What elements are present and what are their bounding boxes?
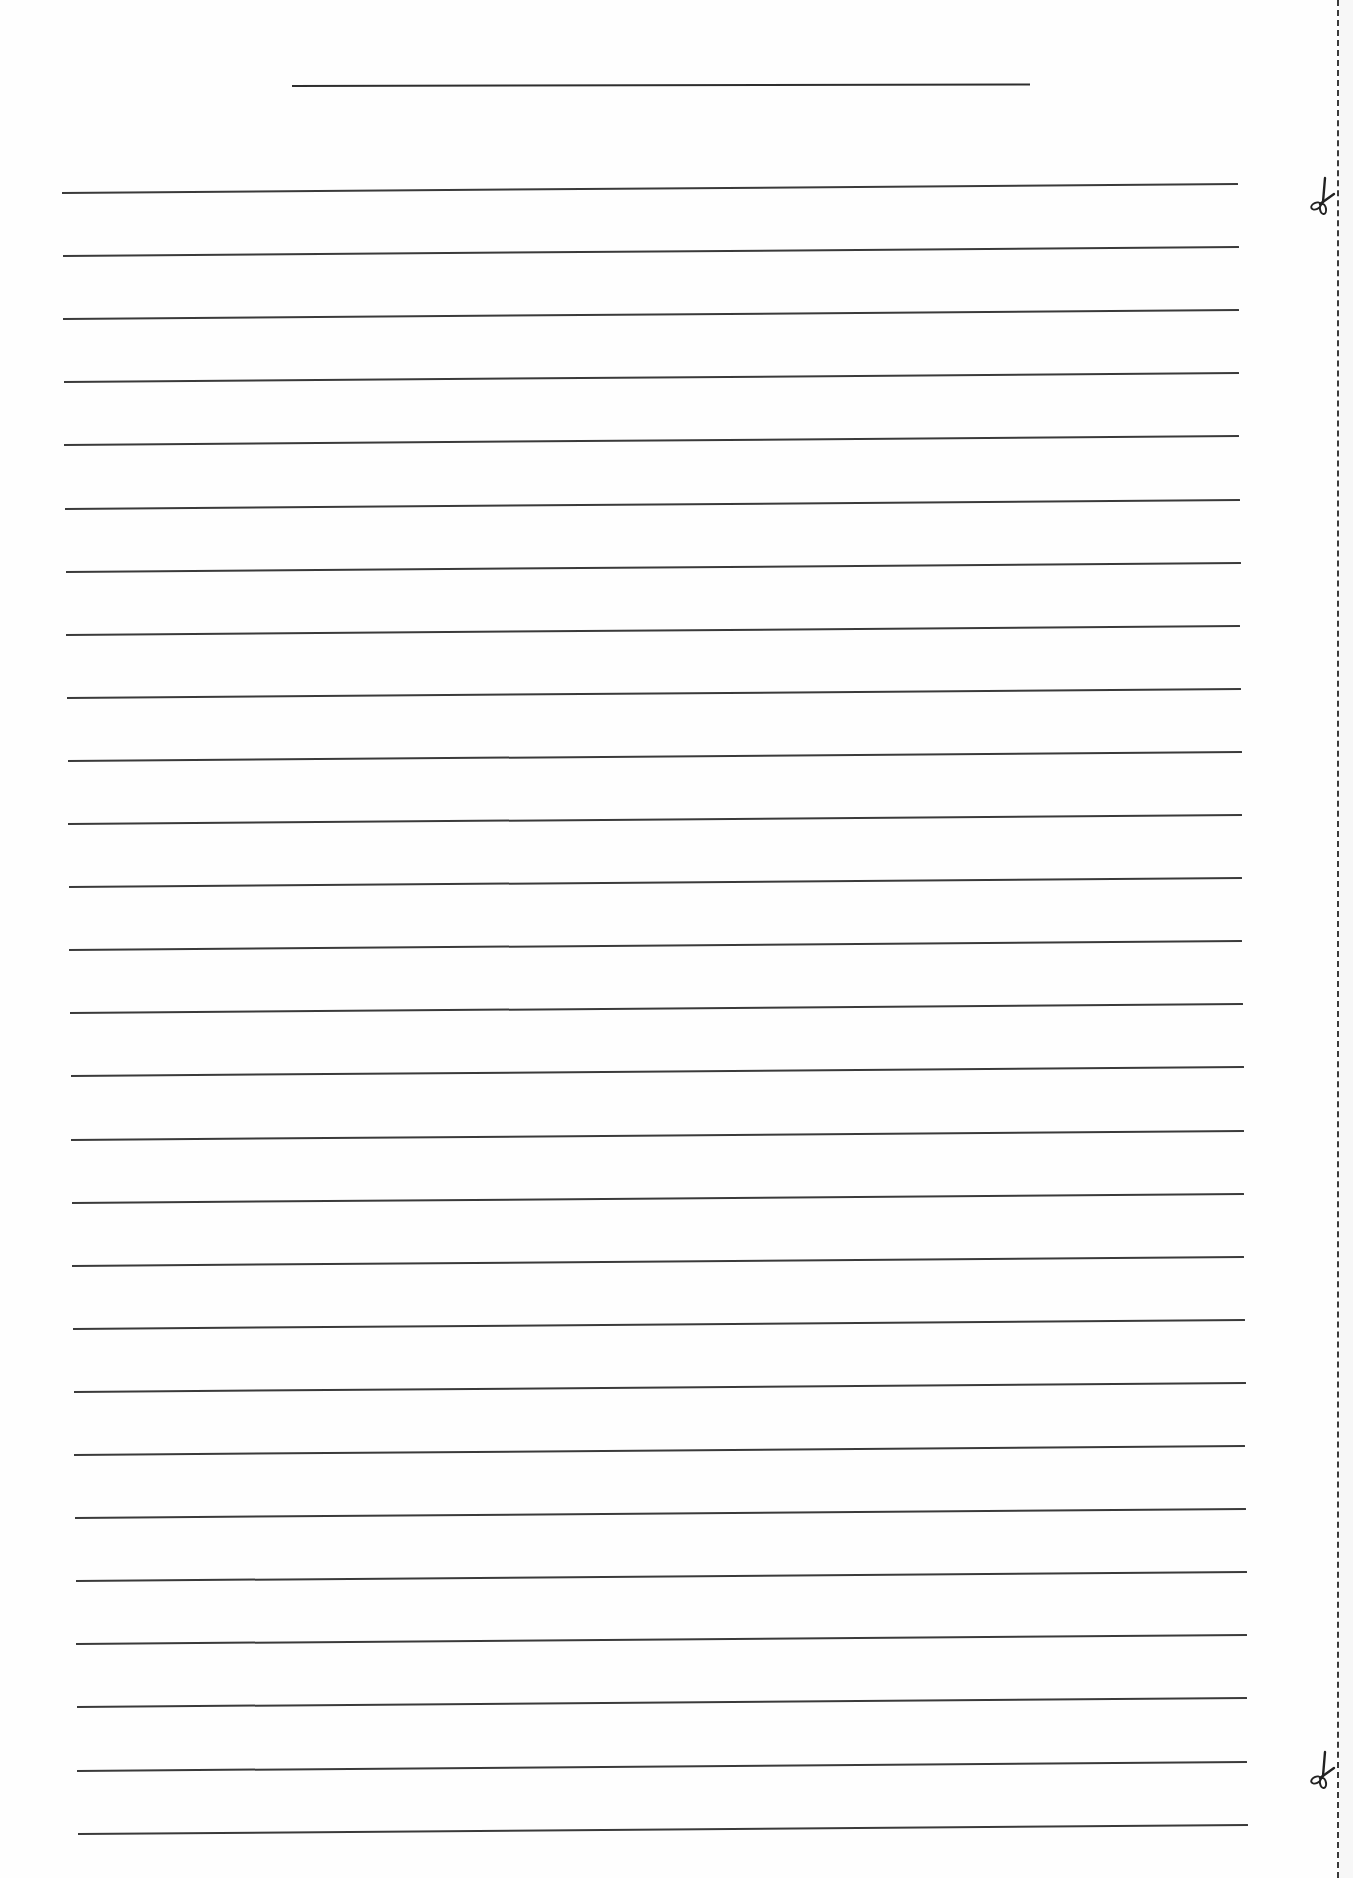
dashed-cut-line — [1337, 0, 1339, 1878]
ruled-line — [72, 1256, 1244, 1267]
ruled-line — [75, 1508, 1246, 1519]
ruled-line — [69, 940, 1242, 951]
scissors-icon — [1308, 1750, 1336, 1790]
ruled-line — [64, 435, 1239, 446]
ruled-line — [76, 1571, 1247, 1582]
ruled-line — [71, 1130, 1244, 1141]
scissors-icon — [1308, 176, 1336, 216]
ruled-lines — [0, 0, 1353, 1878]
ruled-line — [68, 814, 1242, 825]
ruled-line — [69, 877, 1242, 888]
ruled-line — [63, 246, 1239, 257]
ruled-line — [65, 499, 1240, 510]
ruled-line — [64, 372, 1239, 383]
ruled-line — [77, 1761, 1247, 1772]
ruled-line — [66, 625, 1240, 636]
ruled-line — [71, 1066, 1244, 1077]
ruled-line — [68, 751, 1242, 762]
ruled-line — [74, 1382, 1246, 1393]
ruled-line — [67, 688, 1241, 699]
ruled-line — [73, 1319, 1245, 1330]
ruled-line — [62, 183, 1238, 194]
ruled-line — [66, 562, 1241, 573]
lined-paper-page — [0, 0, 1353, 1878]
ruled-line — [72, 1193, 1244, 1204]
ruled-line — [78, 1824, 1248, 1835]
ruled-line — [76, 1634, 1247, 1645]
ruled-line — [74, 1445, 1245, 1456]
ruled-line — [63, 309, 1239, 320]
ruled-line — [70, 1003, 1243, 1014]
ruled-line — [77, 1697, 1247, 1708]
